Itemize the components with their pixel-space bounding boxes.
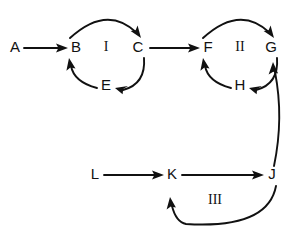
diagram-canvas: A B C E F G H L K J I II III [0, 0, 294, 245]
cycle-label-i: I [104, 39, 109, 54]
node-label-h: H [235, 76, 246, 93]
edge-c-to-f [150, 43, 200, 52]
node-label-l: L [91, 165, 99, 182]
node-label-k: K [167, 165, 177, 182]
node-label-j: J [268, 165, 276, 182]
edge-c-to-e [115, 58, 144, 94]
node-label-e: E [101, 76, 111, 93]
edge-l-to-k [104, 170, 164, 179]
edge-b-to-c [70, 20, 141, 38]
edge-k-to-j [182, 170, 264, 179]
cycle-labels-layer: I II III [104, 39, 245, 207]
node-label-g: G [265, 38, 277, 55]
cycle-diagram: A B C E F G H L K J I II III [0, 0, 294, 245]
cycle-label-iii: III [208, 192, 222, 207]
node-label-f: F [203, 38, 212, 55]
edge-h-to-f [200, 58, 231, 88]
node-label-c: C [133, 38, 144, 55]
edge-e-to-b [66, 58, 97, 88]
edge-a-to-b [24, 43, 68, 52]
node-label-a: A [10, 38, 20, 55]
cycle-label-ii: II [235, 39, 245, 54]
edge-f-to-g [203, 20, 274, 38]
node-label-b: B [71, 38, 81, 55]
